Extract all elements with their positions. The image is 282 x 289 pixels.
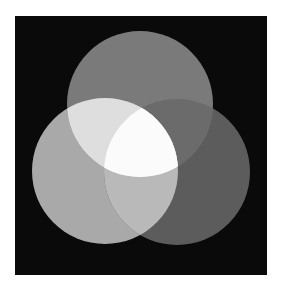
venn-diagram-stage — [0, 0, 282, 289]
venn-diagram — [0, 0, 282, 289]
